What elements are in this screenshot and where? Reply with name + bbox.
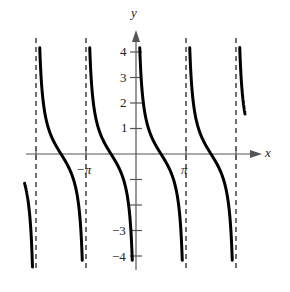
y-tick-label-2: 2	[120, 96, 127, 109]
y-tick-label-4: 4	[120, 45, 127, 58]
x-tick-label-pi: π	[181, 163, 188, 176]
cotangent-curves	[25, 48, 245, 267]
y-axis-arrow-icon	[132, 30, 140, 42]
y-tick-label-3: 3	[120, 71, 127, 84]
cot-branch	[240, 48, 245, 114]
y-tick-label-neg-4: −4	[112, 250, 126, 263]
axes	[26, 30, 262, 270]
y-tick-label-neg-3: −3	[112, 224, 126, 237]
x-axis-label: x	[265, 146, 271, 159]
x-axis-arrow-icon	[250, 150, 262, 158]
y-axis-label: y	[131, 6, 137, 19]
y-tick-label-1: 1	[121, 121, 128, 134]
cotangent-plot	[0, 0, 290, 292]
x-tick-label-neg-pi: −π	[76, 163, 91, 176]
cot-branch	[25, 183, 33, 267]
